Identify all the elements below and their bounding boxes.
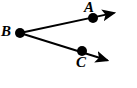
rays-group bbox=[20, 13, 114, 60]
ray-ba bbox=[20, 13, 114, 33]
point-c-label: C bbox=[76, 55, 86, 70]
geometry-canvas bbox=[0, 0, 137, 88]
point-b-dot bbox=[15, 28, 25, 38]
ray-bc bbox=[20, 33, 107, 60]
geometry-figure: A B C bbox=[0, 0, 137, 88]
point-a-label: A bbox=[84, 0, 94, 15]
point-b-label: B bbox=[1, 24, 11, 39]
